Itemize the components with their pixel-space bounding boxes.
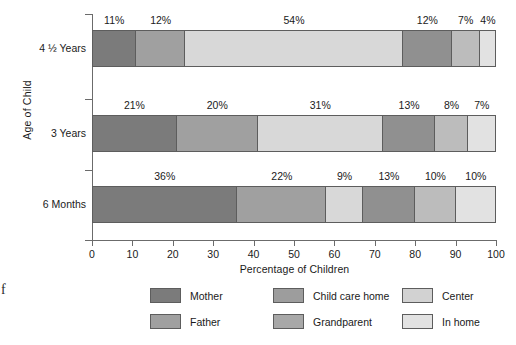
bar-segment-value-label: 7% xyxy=(474,99,489,111)
bar-segment xyxy=(480,30,496,67)
bar-segment-value-label: 10% xyxy=(465,170,486,182)
legend-label: In home xyxy=(442,316,480,328)
x-axis-tick xyxy=(254,241,255,246)
bar-segment xyxy=(468,115,496,152)
bar-segment-value-label: 13% xyxy=(378,170,399,182)
x-axis-tick xyxy=(334,241,335,246)
bar-segment-value-label: 36% xyxy=(154,170,175,182)
x-axis-tick xyxy=(415,241,416,246)
x-axis-tick-label: 0 xyxy=(77,248,107,260)
x-axis-tick xyxy=(132,241,133,246)
y-axis-tick xyxy=(85,240,92,241)
bar-segment xyxy=(435,115,467,152)
legend-swatch xyxy=(402,288,433,303)
bar-segment-value-label: 22% xyxy=(271,170,292,182)
bar-segment-value-label: 4% xyxy=(480,14,495,26)
y-axis-category-label: 6 Months xyxy=(6,198,86,210)
bar-segment xyxy=(258,115,383,152)
bar-row xyxy=(92,186,496,223)
bar-segment xyxy=(383,115,436,152)
x-axis-tick-label: 80 xyxy=(400,248,430,260)
x-axis-tick xyxy=(173,241,174,246)
legend-item[interactable]: Child care home xyxy=(273,288,389,303)
y-axis-title: Age of Child xyxy=(21,65,33,155)
bar-segment xyxy=(456,186,496,223)
x-axis-tick-label: 70 xyxy=(360,248,390,260)
x-axis-tick xyxy=(213,241,214,246)
x-axis-tick xyxy=(294,241,295,246)
bar-segment xyxy=(177,115,258,152)
bar-row xyxy=(92,115,496,152)
legend-item[interactable]: Grandparent xyxy=(273,314,372,329)
legend-item[interactable]: Mother xyxy=(150,288,223,303)
legend-item[interactable]: Center xyxy=(402,288,474,303)
x-axis-tick-label: 90 xyxy=(441,248,471,260)
bar-segment xyxy=(92,115,177,152)
x-axis-tick-label: 60 xyxy=(319,248,349,260)
legend-label: Center xyxy=(442,290,474,302)
bar-segment-value-label: 20% xyxy=(207,99,228,111)
bar-segment-value-label: 54% xyxy=(283,14,304,26)
bar-segment-value-label: 9% xyxy=(337,170,352,182)
x-axis-tick-label: 30 xyxy=(198,248,228,260)
legend-swatch xyxy=(150,288,181,303)
bar-segment-value-label: 21% xyxy=(124,99,145,111)
bar-row xyxy=(92,30,496,67)
bar-segment-value-label: 12% xyxy=(417,14,438,26)
bar-segment xyxy=(136,30,184,67)
legend-swatch xyxy=(273,288,304,303)
bar-segment xyxy=(415,186,455,223)
y-axis-category-label: 4 ½ Years xyxy=(6,42,86,54)
bar-segment-value-label: 10% xyxy=(425,170,446,182)
bar-segment-value-label: 7% xyxy=(458,14,473,26)
bar-segment xyxy=(92,186,237,223)
x-axis-tick xyxy=(456,241,457,246)
x-axis-tick-label: 10 xyxy=(117,248,147,260)
x-axis-tick xyxy=(496,241,497,246)
legend-swatch xyxy=(402,314,433,329)
stacked-bar-chart: Age of Child 4 ½ Years3 Years6 Months 11… xyxy=(0,0,516,345)
bar-segment xyxy=(363,186,416,223)
x-axis-tick xyxy=(92,241,93,246)
bar-segment xyxy=(237,186,326,223)
bar-segment-value-label: 8% xyxy=(444,99,459,111)
bar-segment xyxy=(452,30,480,67)
x-axis-tick-label: 20 xyxy=(158,248,188,260)
x-axis-title: Percentage of Children xyxy=(92,263,497,275)
bar-segment-value-label: 12% xyxy=(150,14,171,26)
bar-segment-value-label: 13% xyxy=(399,99,420,111)
bar-segment-value-label: 31% xyxy=(310,99,331,111)
legend-label: Grandparent xyxy=(313,316,372,328)
legend-item[interactable]: Father xyxy=(150,314,220,329)
legend-label: Child care home xyxy=(313,290,389,302)
x-axis-tick-label: 40 xyxy=(239,248,269,260)
legend-swatch xyxy=(273,314,304,329)
bar-segment xyxy=(326,186,362,223)
x-axis-tick-label: 100 xyxy=(481,248,511,260)
legend-item[interactable]: In home xyxy=(402,314,480,329)
x-axis-tick-label: 50 xyxy=(279,248,309,260)
bar-segment xyxy=(403,30,451,67)
bar-segment-value-label: 11% xyxy=(104,14,124,26)
legend-label: Mother xyxy=(190,290,223,302)
bar-segment xyxy=(185,30,403,67)
y-axis-category-label: 3 Years xyxy=(6,127,86,139)
legend-swatch xyxy=(150,314,181,329)
page-artifact-glyph: f xyxy=(1,282,6,298)
y-axis-tick xyxy=(85,99,92,100)
legend-label: Father xyxy=(190,316,220,328)
y-axis-tick xyxy=(85,170,92,171)
y-axis-tick xyxy=(85,14,92,15)
x-axis-tick xyxy=(375,241,376,246)
bar-segment xyxy=(92,30,136,67)
legend: MotherFatherChild care homeGrandparentCe… xyxy=(150,288,510,336)
